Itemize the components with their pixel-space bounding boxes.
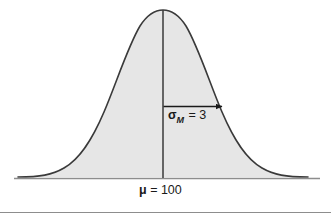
sigma-value: = 3 — [184, 108, 206, 122]
mu-label: μ = 100 — [139, 183, 182, 197]
sigma-subscript: M — [177, 115, 185, 125]
sigma-symbol: σ — [168, 108, 177, 122]
bottom-divider — [0, 212, 331, 213]
mu-value: = 100 — [147, 183, 182, 197]
sigma-m-label: σM = 3 — [168, 108, 206, 125]
mu-symbol: μ — [139, 183, 147, 197]
